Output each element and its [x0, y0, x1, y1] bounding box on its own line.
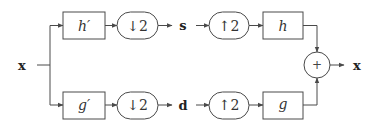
g-prime-label: g′ — [78, 97, 91, 113]
analysis-filter-g-prime: g′ — [63, 92, 105, 119]
input-split-wires — [37, 26, 63, 106]
signal-s-label: s — [179, 18, 186, 33]
upsample-top-label: ↑2 — [219, 18, 240, 34]
filter-bank-diagram: x h′ ↓2 s ↑2 h g′ ↓2 d ↑ — [0, 0, 376, 127]
h-label: h — [278, 18, 287, 34]
adder-node: + — [304, 52, 330, 78]
upsampler-bottom: ↑2 — [209, 92, 249, 119]
g-label: g — [279, 96, 288, 112]
upsample-bottom-label: ↑2 — [219, 97, 240, 113]
plus-icon: + — [312, 58, 322, 72]
downsample-top-label: ↓2 — [127, 18, 148, 34]
synthesis-filter-g: g — [263, 92, 303, 119]
wire-g-to-adder — [303, 78, 317, 105]
output-signal-label: x — [353, 58, 361, 73]
downsample-bottom-label: ↓2 — [127, 97, 148, 113]
downsampler-top: ↓2 — [117, 12, 158, 39]
wire-h-to-adder — [303, 26, 317, 53]
h-prime-label: h′ — [78, 18, 91, 34]
upsampler-top: ↑2 — [209, 12, 249, 39]
signal-d-label: d — [178, 98, 187, 113]
analysis-filter-h-prime: h′ — [63, 12, 105, 39]
downsampler-bottom: ↓2 — [117, 92, 158, 119]
synthesis-filter-h: h — [263, 12, 303, 39]
input-signal-label: x — [18, 58, 26, 73]
